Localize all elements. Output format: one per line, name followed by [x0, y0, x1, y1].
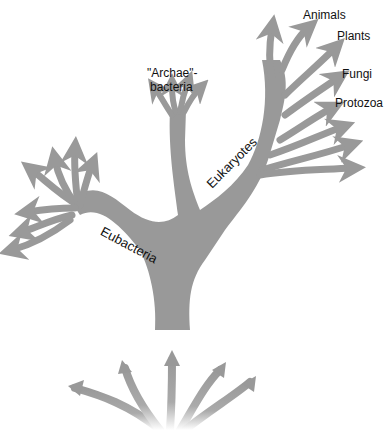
- label-archaebacteria-2: bacteria: [150, 80, 193, 94]
- label-fungi: Fungi: [342, 67, 372, 81]
- label-protozoa: Protozoa: [335, 96, 383, 110]
- trunk: [70, 60, 286, 330]
- label-archaebacteria-1: "Archae"-: [147, 66, 198, 80]
- eubacteria-branches: [12, 150, 92, 250]
- ancestral-arrowheads: [68, 350, 256, 396]
- label-plants: Plants: [337, 29, 370, 43]
- label-animals: Animals: [303, 8, 346, 22]
